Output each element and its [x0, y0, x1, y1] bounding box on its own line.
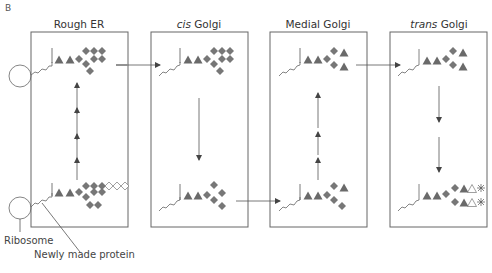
polypeptide-chain: [159, 197, 180, 211]
polypeptide-chain: [279, 197, 300, 211]
polypeptide-chain: [279, 62, 300, 76]
glycan-tree: [423, 47, 468, 71]
newly-made-protein-label: Newly made protein: [34, 249, 135, 260]
ribosome-icon: [9, 197, 31, 219]
polypeptide-chain: [398, 184, 419, 211]
title-medial-golgi: Medial Golgi: [286, 18, 351, 30]
title-trans-golgi: trans Golgi: [410, 18, 467, 30]
glycan-tree: [184, 47, 235, 75]
glycan-tree-mature: [423, 184, 477, 207]
title-cis-golgi: cis Golgi: [177, 18, 222, 30]
glycosylation-diagram: B Rough ER cis Golgi Medial Golgi trans …: [0, 0, 492, 273]
asterisk-icon: [477, 184, 485, 192]
panel-letter: B: [5, 3, 11, 13]
asterisk-icon: [477, 198, 485, 206]
title-rough-er: Rough ER: [54, 18, 105, 30]
polypeptide-chain: [159, 62, 180, 76]
ribosome-label: Ribosome: [4, 235, 53, 246]
glycan-tree: [304, 47, 349, 71]
polypeptide-chain: [31, 62, 52, 75]
polypeptide-chain: [31, 193, 52, 207]
glycan-tree-trimmed: [184, 181, 227, 210]
polypeptide-chain: [398, 49, 419, 76]
glycan-tree: [304, 182, 349, 210]
ribosome-icon: [9, 65, 31, 87]
glycan-tree: [55, 47, 107, 75]
glycan-tree-precursor: [55, 182, 130, 209]
